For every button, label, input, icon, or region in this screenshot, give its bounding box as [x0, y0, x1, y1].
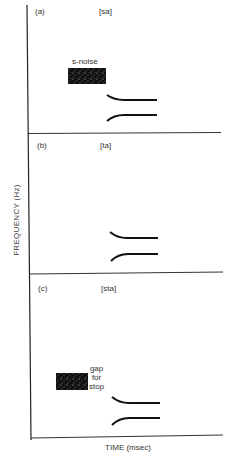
panel-c-baseline — [31, 435, 223, 438]
panel-c-syllable: [sta] — [101, 285, 116, 293]
formant-upper-a — [107, 95, 157, 100]
spectrogram-diagram — [0, 0, 231, 465]
formant-lower-b — [111, 254, 158, 261]
for-word: for — [89, 373, 104, 382]
panel-a-tag: (a) — [35, 8, 45, 16]
formant-lower-c — [112, 418, 160, 425]
s-noise-label: s-noise — [72, 58, 98, 66]
panel-c-tag: (c) — [38, 285, 47, 293]
y-axis — [27, 5, 31, 440]
gap-for-stop-label: gap for stop — [89, 364, 104, 391]
panel-a-baseline — [28, 133, 221, 134]
s-noise-block — [68, 68, 106, 84]
y-axis-label: FREQUENCY (Hz) — [12, 184, 21, 256]
formant-upper-b — [110, 232, 158, 238]
panel-b-baseline — [30, 272, 223, 274]
panel-a-syllable: [sa] — [99, 8, 112, 16]
gap-word: gap — [89, 364, 104, 373]
stop-word: stop — [89, 382, 104, 391]
gap-noise-block — [56, 373, 88, 390]
panel-b-syllable: [ta] — [100, 142, 111, 150]
formant-lower-a — [107, 115, 157, 121]
formant-upper-c — [112, 397, 160, 403]
panel-b-tag: (b) — [37, 142, 47, 150]
x-axis-label: TIME (msec) — [105, 443, 151, 452]
